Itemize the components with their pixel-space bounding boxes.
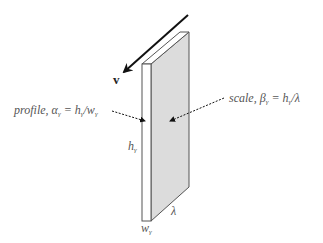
width-label: wγ (141, 221, 152, 236)
scale-label: scale, βγ = hγ/λ (229, 91, 300, 106)
velocity-label: v (113, 72, 120, 87)
plate-diagram: v profile, αγ = hγ/wγ scale, βγ = hγ/λ h… (0, 0, 323, 243)
plate-front-face (142, 64, 151, 221)
height-label: hγ (128, 139, 137, 154)
profile-pointer-arrow (112, 111, 145, 121)
length-label: λ (170, 204, 176, 218)
profile-label: profile, αγ = hγ/wγ (13, 103, 98, 118)
plate-side-face (151, 32, 189, 221)
